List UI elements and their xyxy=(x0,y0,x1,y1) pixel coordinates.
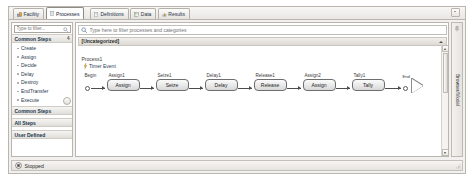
facility-icon xyxy=(17,12,22,17)
flow-node-type: Seize xyxy=(166,82,179,88)
flow-node-name: Assign2 xyxy=(305,73,321,78)
steps-filter-input[interactable] xyxy=(17,26,65,31)
flow-node-seize1[interactable]: Seize xyxy=(156,79,189,91)
application-window: Facility Processes Definitions xyxy=(8,6,466,174)
sidebar-group-label: Common Steps xyxy=(15,108,52,114)
flow-link xyxy=(385,88,401,89)
step-item-label: Assign xyxy=(21,54,36,60)
category-header-uncategorized[interactable]: [Uncategorized] xyxy=(78,37,447,46)
search-icon xyxy=(81,27,88,34)
scroll-down-arrow-icon[interactable] xyxy=(442,149,449,156)
flow-node-name: Seize1 xyxy=(158,73,172,78)
step-item-label: Create xyxy=(21,45,36,51)
browser-dock-label: Browser/Model xyxy=(455,74,460,106)
process-canvas[interactable]: Process1 Timer Event Begin Assign1 Assig… xyxy=(78,56,442,155)
tab-overflow-chevron-down-icon[interactable] xyxy=(451,8,460,17)
step-item-label: EndTransfer xyxy=(21,88,48,94)
flow-node-assign1[interactable]: Assign xyxy=(107,79,140,91)
step-item-label: Delay xyxy=(21,71,34,77)
steps-group-header-label: Common Steps xyxy=(15,36,52,42)
tab-processes-label: Processes xyxy=(56,11,79,17)
flow-link xyxy=(189,88,203,89)
canvas-vertical-scrollbar[interactable] xyxy=(441,45,448,156)
flow-link xyxy=(287,88,301,89)
step-item-destroy[interactable]: Destroy xyxy=(12,78,72,87)
flow-node-name: Delay1 xyxy=(207,73,221,78)
scroll-up-arrow-icon[interactable] xyxy=(442,45,449,52)
status-bar-text: Stopped xyxy=(25,163,44,169)
step-item-execute[interactable]: Execute xyxy=(12,96,72,105)
step-item-label: Execute xyxy=(21,97,39,103)
step-item-assign[interactable]: Assign xyxy=(12,53,72,62)
flow-node-tally1[interactable]: Tally xyxy=(352,79,385,91)
flow-link xyxy=(238,88,252,89)
bullet-icon xyxy=(17,99,19,101)
sidebar-group-user-defined[interactable]: User Defined xyxy=(12,130,72,139)
flow-node-type: Release xyxy=(261,82,279,88)
process-trigger[interactable]: Timer Event xyxy=(83,63,116,69)
step-item-create[interactable]: Create xyxy=(12,44,72,53)
process-filter-input[interactable] xyxy=(90,27,310,33)
steps-panel: Common Steps 4 Create Assign Decide Dela… xyxy=(11,22,73,157)
flow-expand-triangle-icon[interactable] xyxy=(412,79,423,93)
flow-node-type: Tally xyxy=(363,82,373,88)
tab-definitions[interactable]: Definitions xyxy=(90,8,129,19)
category-chevron-up-icon[interactable] xyxy=(439,41,443,43)
sidebar-group-label: All Steps xyxy=(15,120,36,126)
flow-node-type: Assign xyxy=(311,82,326,88)
pin-icon[interactable] xyxy=(454,26,460,32)
bullet-icon xyxy=(17,82,19,84)
bullet-icon xyxy=(17,73,19,75)
process-flowchart: Begin Assign1 Assign Seize1 Seize Delay1 xyxy=(82,73,442,99)
tab-data[interactable]: Data xyxy=(130,8,156,19)
data-icon xyxy=(134,12,139,17)
flow-node-assign2[interactable]: Assign xyxy=(303,79,336,91)
tab-data-label: Data xyxy=(141,11,152,17)
resize-grip-icon[interactable] xyxy=(455,163,461,169)
step-item-delay[interactable]: Delay xyxy=(12,70,72,79)
search-icon xyxy=(63,27,69,33)
status-bar: Stopped xyxy=(11,160,463,171)
steps-filter-box[interactable] xyxy=(14,25,71,33)
process-filter-box[interactable] xyxy=(78,25,447,35)
flow-begin-label: Begin xyxy=(85,73,97,78)
tab-processes[interactable]: Processes xyxy=(46,7,85,19)
sidebar-group-common-steps[interactable]: Common Steps xyxy=(12,106,72,115)
steps-group-header-common[interactable]: Common Steps 4 xyxy=(12,34,72,43)
process-name: Process1 xyxy=(82,56,103,62)
step-item-endtransfer[interactable]: EndTransfer xyxy=(12,87,72,96)
step-item-decide[interactable]: Decide xyxy=(12,61,72,70)
flow-node-name: Release1 xyxy=(256,73,275,78)
step-item-label: Destroy xyxy=(21,79,38,85)
tab-results-label: Results xyxy=(168,11,185,17)
bullet-icon xyxy=(17,91,19,93)
bullet-icon xyxy=(17,56,19,58)
flow-node-type: Delay xyxy=(215,82,228,88)
flow-node-name: Tally1 xyxy=(354,73,366,78)
flow-link xyxy=(91,88,105,89)
tab-facility-label: Facility xyxy=(24,11,40,17)
steps-scroll-nub[interactable] xyxy=(63,97,71,105)
sidebar-group-all-steps[interactable]: All Steps xyxy=(12,118,72,127)
tab-facility[interactable]: Facility xyxy=(13,8,44,19)
flow-end-node[interactable] xyxy=(403,86,408,91)
flow-node-type: Assign xyxy=(115,82,130,88)
flow-begin-node[interactable] xyxy=(85,86,90,91)
results-icon xyxy=(162,12,167,17)
tab-results[interactable]: Results xyxy=(158,8,190,19)
flow-end-label: End xyxy=(403,74,410,79)
flow-node-release1[interactable]: Release xyxy=(254,79,287,91)
flow-node-delay1[interactable]: Delay xyxy=(205,79,238,91)
process-trigger-label: Timer Event xyxy=(89,63,116,69)
steps-list: Create Assign Decide Delay Destroy EndTr… xyxy=(12,43,72,104)
flow-node-name: Assign1 xyxy=(109,73,125,78)
sidebar-group-label: User Defined xyxy=(15,132,46,138)
definitions-icon xyxy=(94,12,99,17)
browser-dock-panel[interactable]: Browser/Model xyxy=(451,22,463,157)
bullet-icon xyxy=(17,65,19,67)
process-editor-pane: [Uncategorized] Process1 Timer Event Beg… xyxy=(75,22,449,157)
ribbon-tab-strip: Facility Processes Definitions xyxy=(9,7,465,20)
flow-link xyxy=(336,88,350,89)
scrollbar-thumb[interactable] xyxy=(443,53,449,93)
lightning-bolt-icon xyxy=(83,63,88,69)
